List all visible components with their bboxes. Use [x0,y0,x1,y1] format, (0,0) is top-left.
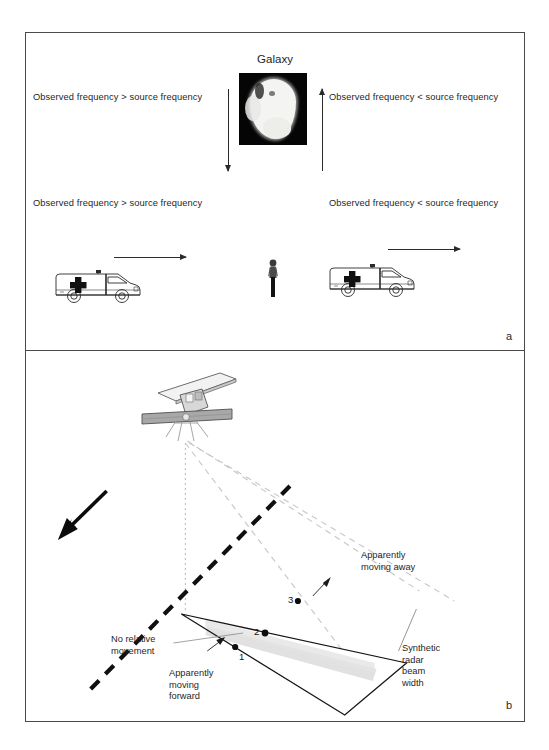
sample-point-3 [295,598,301,604]
point-label-2: 2 [254,626,259,637]
label-no-relative-movement: No relative movement [111,634,155,657]
label-apparently-moving-away: Apparently moving away [361,550,415,573]
panel-a: Galaxy Observed frequency > source frequ… [26,33,524,351]
arrow-shaft [388,249,460,250]
grey-beam-band [205,626,376,681]
label-synthetic-radar-beam-width: Synthetic radar beam width [402,643,440,689]
label-apparently-moving-forward: Apparently moving forward [169,668,213,703]
satellite-icon [136,369,246,459]
label-bottom-left: Observed frequency > source frequency [33,198,202,208]
arrow-down-left-icon [58,491,107,540]
panel-b-letter: b [506,699,512,711]
arrow-shaft [228,89,229,171]
satellite-struts [166,421,208,441]
arrow-head [180,254,187,260]
panel-a-letter: a [506,330,512,342]
sample-point-2 [262,630,269,637]
label-top-right: Observed frequency < source frequency [329,92,498,102]
panel-b: Apparently moving away No relative movem… [26,351,524,721]
galaxy-title: Galaxy [26,53,524,65]
leader-arrow-moving-away [323,577,331,587]
arrow-down-icon [224,89,234,171]
galaxy-blob-lower [263,117,291,139]
arrow-right-icon-right-ambulance [388,245,460,254]
galaxy-dark-spot [269,91,275,96]
radar-geometry-diagram [26,351,524,721]
red-cross-symbol [70,277,87,293]
point-label-1: 1 [239,651,244,662]
galaxy-dark-patch [255,83,264,99]
grey-beam-band-soft [205,619,374,673]
label-bottom-right: Observed frequency < source frequency [329,198,498,208]
label-top-left: Observed frequency > source frequency [33,92,202,102]
arrow-head [319,88,325,95]
sample-point-1 [232,644,238,650]
point-label-3: 3 [288,594,293,605]
arrow-shaft [114,257,186,258]
arrow-up-icon [318,89,328,171]
ambulance-icon [326,255,422,299]
arrow-head [454,246,461,252]
arrow-shaft [322,89,323,171]
ambulance-icon [52,261,148,305]
galaxy-photo [239,73,307,145]
beam-edge-far [189,443,454,601]
person-icon [266,258,280,298]
figure-frame: Galaxy Observed frequency > source frequ… [25,32,525,722]
arrow-head [225,165,231,172]
ground-track-dashed-line [89,486,290,691]
red-cross-symbol [344,271,361,287]
